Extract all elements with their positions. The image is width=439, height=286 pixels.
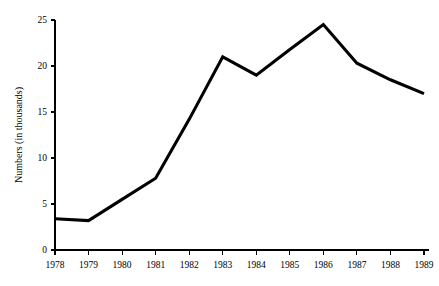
y-axis-tick-labels: 0510152025 [38,15,48,255]
y-axis-title-group: Numbers (in thousands) [13,87,25,183]
plot-area [55,25,424,221]
y-axis-title: Numbers (in thousands) [13,87,25,183]
x-tick-label: 1985 [280,260,299,270]
y-tick-label: 20 [38,61,48,71]
x-axis-ticks [55,250,424,255]
x-tick-label: 1986 [314,260,333,270]
x-tick-label: 1983 [213,260,232,270]
x-tick-label: 1987 [347,260,366,270]
x-axis-group: 1978197919801981198219831984198519861987… [46,250,434,270]
y-axis-ticks [51,20,55,250]
x-tick-label: 1989 [415,260,434,270]
line-chart: 0510152025 19781979198019811982198319841… [0,0,439,286]
y-axis-group: 0510152025 [38,15,56,255]
x-axis-tick-labels: 1978197919801981198219831984198519861987… [46,260,434,270]
x-tick-label: 1981 [146,260,165,270]
y-tick-label: 5 [42,199,47,209]
x-tick-label: 1988 [381,260,400,270]
y-tick-label: 10 [38,153,48,163]
x-tick-label: 1980 [113,260,132,270]
y-tick-label: 25 [38,15,48,25]
x-tick-label: 1978 [46,260,65,270]
x-tick-label: 1979 [79,260,98,270]
x-tick-label: 1982 [180,260,199,270]
x-tick-label: 1984 [247,260,266,270]
y-tick-label: 0 [42,245,47,255]
chart-canvas: 0510152025 19781979198019811982198319841… [0,0,439,286]
y-tick-label: 15 [38,107,48,117]
data-series-line [55,25,424,221]
